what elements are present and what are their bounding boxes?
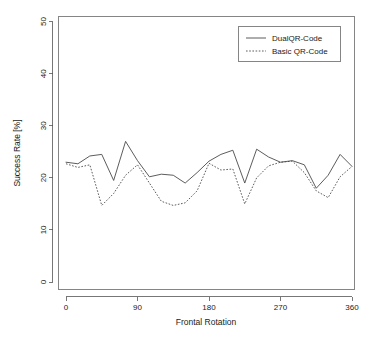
legend-box [239, 27, 341, 62]
y-axis-title: Success Rate [%] [12, 119, 22, 186]
x-tick-label: 0 [64, 303, 69, 312]
x-tick-label: 180 [202, 303, 216, 312]
series-line-dualqr [66, 141, 352, 188]
x-tick-label: 360 [345, 303, 359, 312]
chart-figure: 01020304050 090180270360 DualQR-Code Bas… [0, 0, 375, 344]
line-chart: 01020304050 090180270360 DualQR-Code Bas… [0, 0, 375, 344]
y-tick-label: 20 [39, 173, 48, 182]
series-group [66, 141, 352, 205]
x-tick-label: 90 [133, 303, 142, 312]
y-tick-label: 30 [39, 121, 48, 130]
x-tick-label: 270 [274, 303, 288, 312]
x-axis: 090180270360 [64, 297, 359, 313]
x-axis-title: Frontal Rotation [176, 317, 237, 327]
legend-label-dualqr: DualQR-Code [272, 34, 323, 43]
y-axis: 01020304050 [39, 17, 52, 285]
y-tick-label: 40 [39, 69, 48, 78]
series-line-basicqr [66, 161, 352, 205]
legend: DualQR-Code Basic QR-Code [239, 27, 341, 62]
y-tick-label: 0 [39, 279, 48, 284]
y-tick-label: 10 [39, 225, 48, 234]
legend-label-basicqr: Basic QR-Code [272, 47, 328, 56]
y-tick-label: 50 [39, 17, 48, 26]
